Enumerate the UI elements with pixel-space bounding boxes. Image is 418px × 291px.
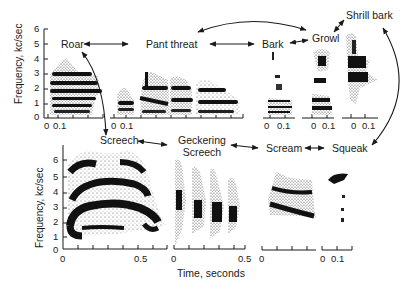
bottom-x-tick: 0 [171, 253, 176, 264]
bottom-y-axis-label: Frequency, kc/sec [34, 168, 45, 248]
top-x-tick: 0.1 [322, 120, 335, 131]
top-y-axis-label: Frequency, kc/sec [13, 24, 24, 104]
label-geckering-line1: Geckering [178, 134, 226, 146]
label-scream: Scream [266, 142, 302, 154]
label-geckering-line2: Screech [178, 146, 226, 158]
bottom-x-axis-screech [63, 245, 167, 249]
bottom-x-tick: 0.1 [331, 253, 344, 264]
spectrogram-squeak [328, 174, 348, 222]
spectrogram-pant-threat [117, 72, 240, 115]
spectrogram-bark [268, 52, 292, 115]
arrow-bark-growl [290, 40, 308, 43]
top-y-axis [44, 29, 48, 118]
bottom-x-tick: 0 [60, 253, 65, 264]
label-squeak: Squeak [332, 142, 368, 154]
spectrogram-scream [268, 172, 316, 218]
label-pant-threat: Pant threat [146, 38, 197, 50]
top-y-tick: 0 [34, 111, 39, 122]
top-x-tick: 0.1 [277, 120, 290, 131]
label-bark: Bark [262, 38, 284, 50]
label-screech: Screech [100, 134, 139, 146]
top-x-tick: 0 [311, 120, 316, 131]
bottom-y-tick: 0 [53, 244, 58, 255]
top-x-tick: 0 [264, 120, 269, 131]
top-x-tick: 0.1 [53, 120, 66, 131]
bottom-x-axis-label: Time, seconds [177, 267, 245, 279]
bottom-x-axis-squeak [322, 246, 352, 250]
label-geckering-screech: Geckering Screech [178, 134, 226, 158]
top-x-tick: 0.1 [362, 120, 375, 131]
arrow-gecker-scream [231, 145, 258, 148]
top-y-tick: 2 [34, 82, 39, 93]
spectrogram-screech [68, 150, 166, 236]
spectrogram-growl [312, 49, 332, 115]
top-x-tick: 0 [44, 120, 49, 131]
bottom-y-tick: 1 [53, 231, 58, 242]
top-y-tick: 3 [34, 67, 39, 78]
spectrogram-geckering-screech [175, 160, 240, 246]
bottom-x-tick: 0 [320, 253, 325, 264]
spectrogram-shrill-bark [346, 33, 378, 104]
bottom-y-tick: 6 [53, 154, 58, 165]
bottom-y-tick: 2 [53, 216, 58, 227]
arrow-growl-pant [198, 21, 306, 32]
spectrogram-roar [50, 58, 103, 115]
top-y-tick: 1 [34, 97, 39, 108]
bottom-x-tick: 0.5 [238, 253, 251, 264]
label-shrill-bark: Shrill bark [346, 9, 393, 21]
arrow-growl-shrill [334, 20, 344, 32]
bottom-x-tick: 0 [259, 253, 264, 264]
top-x-tick: 0.1 [120, 120, 133, 131]
top-y-tick: 4 [34, 53, 39, 64]
top-y-tick: 5 [34, 38, 39, 49]
top-y-tick: 6 [34, 23, 39, 34]
label-growl: Growl [312, 32, 339, 44]
bottom-y-tick: 4 [53, 186, 58, 197]
label-roar: Roar [61, 38, 84, 50]
bottom-x-axis-geckering [174, 245, 245, 249]
top-x-tick: 0 [111, 120, 116, 131]
bottom-y-axis [63, 145, 67, 249]
bottom-y-tick: 5 [53, 171, 58, 182]
arrow-shrill-squeak [372, 28, 399, 145]
bottom-x-axis-scream [262, 246, 316, 250]
top-x-axis-shrill [342, 114, 378, 118]
arrow-screech-gecker [138, 141, 167, 145]
bottom-x-tick: 0.5 [134, 253, 147, 264]
bottom-y-tick: 3 [53, 201, 58, 212]
top-x-tick: 0 [351, 120, 356, 131]
